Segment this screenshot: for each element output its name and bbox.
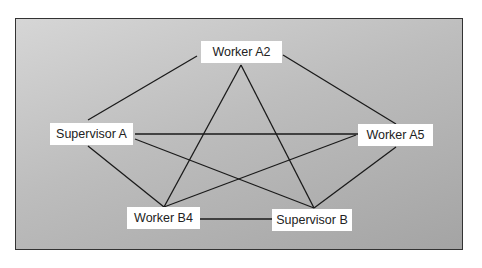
node-supervisor-a: Supervisor A bbox=[50, 123, 133, 145]
edge-sa-sb bbox=[135, 139, 314, 208]
edge-a2-sb bbox=[241, 65, 314, 208]
node-worker-a2: Worker A2 bbox=[201, 41, 282, 63]
edge-sa-b4 bbox=[88, 146, 164, 207]
node-worker-a5: Worker A5 bbox=[358, 124, 433, 146]
node-supervisor-b: Supervisor B bbox=[272, 209, 352, 231]
edge-a2-b4 bbox=[164, 65, 241, 207]
edge-a2-sa bbox=[88, 56, 197, 120]
node-worker-b4: Worker B4 bbox=[127, 207, 200, 229]
edge-a5-sb bbox=[314, 147, 396, 208]
edge-a5-b4 bbox=[164, 135, 356, 207]
edge-a2-a5 bbox=[283, 55, 396, 124]
